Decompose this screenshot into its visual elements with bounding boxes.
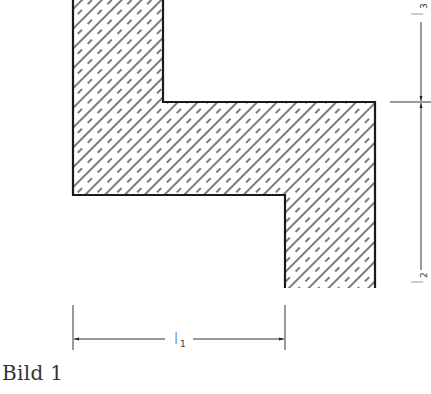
section-body bbox=[73, 0, 375, 288]
label-l3-symbol: l bbox=[409, 12, 427, 16]
z-section-diagram: l 3 l 2 l 1 bbox=[0, 0, 431, 394]
label-l3: l 3 bbox=[409, 3, 429, 16]
dimension-vertical: l 3 l 2 bbox=[390, 3, 431, 288]
dimension-horizontal: l 1 bbox=[73, 305, 285, 350]
figure-caption: Bild 1 bbox=[2, 361, 63, 385]
label-l1-symbol: l bbox=[174, 330, 178, 348]
section-fill bbox=[73, 0, 375, 288]
label-l3-subscript: 3 bbox=[419, 3, 429, 9]
label-l2-symbol: l bbox=[409, 280, 427, 284]
label-l1-subscript: 1 bbox=[180, 339, 186, 349]
label-l2: l 2 bbox=[409, 272, 429, 284]
label-l2-subscript: 2 bbox=[419, 272, 429, 278]
